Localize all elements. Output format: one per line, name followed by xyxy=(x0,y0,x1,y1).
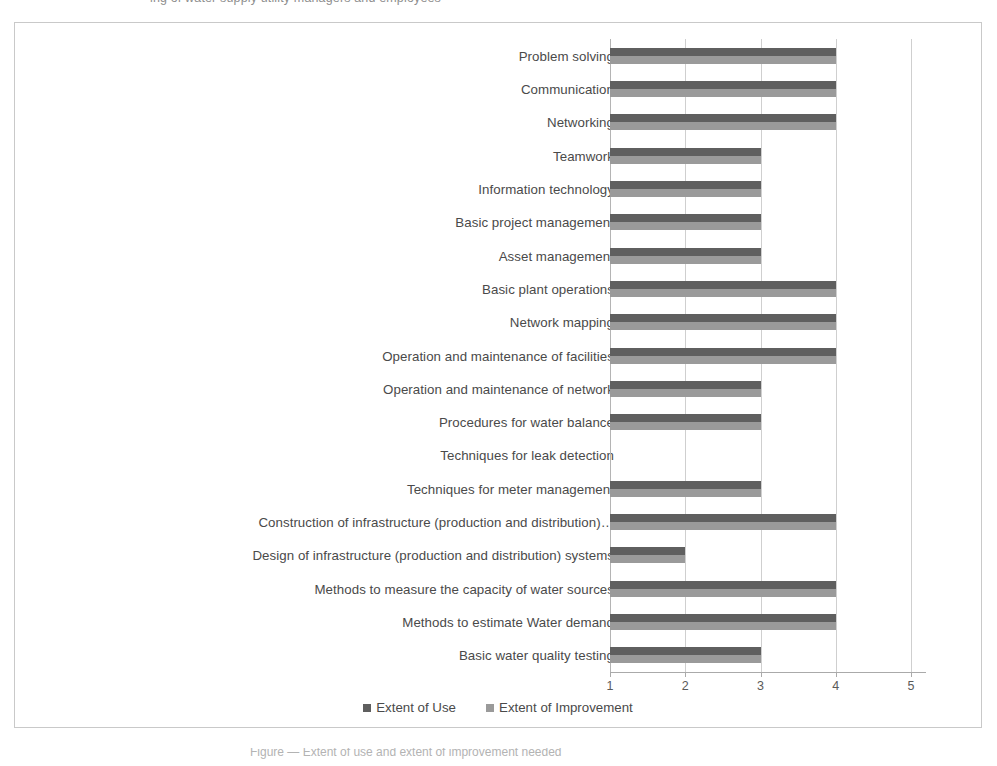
plot-area xyxy=(610,39,912,672)
legend-item-extent-of-improvement[interactable]: Extent of Improvement xyxy=(486,701,633,714)
bar-row xyxy=(610,81,912,97)
bar-extent-of-improvement xyxy=(610,389,761,397)
bar-extent-of-improvement xyxy=(610,122,836,130)
bar-extent-of-use xyxy=(610,481,761,489)
x-tick-mark xyxy=(685,672,686,677)
bar-extent-of-use xyxy=(610,647,761,655)
category-label: Asset management xyxy=(499,250,614,263)
bar-extent-of-improvement xyxy=(610,289,836,297)
x-tick-label: 3 xyxy=(757,680,764,693)
square-swatch-icon xyxy=(486,704,494,712)
x-tick-mark xyxy=(911,672,912,677)
x-tick-label: 1 xyxy=(607,680,614,693)
bar-extent-of-use xyxy=(610,414,761,422)
category-label: Basic water quality testing xyxy=(459,649,614,662)
bar-extent-of-improvement xyxy=(610,89,836,97)
bar-extent-of-use xyxy=(610,314,836,322)
bar-extent-of-improvement xyxy=(610,156,761,164)
bar-row xyxy=(610,581,912,597)
bar-extent-of-use xyxy=(610,547,685,555)
x-tick-label: 4 xyxy=(832,680,839,693)
bar-row xyxy=(610,514,912,530)
bar-row xyxy=(610,647,912,663)
category-label: Construction of infrastructure (producti… xyxy=(258,516,614,529)
top-caption-strip: ing of water supply utility managers and… xyxy=(0,0,997,13)
category-label: Network mapping xyxy=(510,316,614,329)
category-label: Information technology xyxy=(478,183,614,196)
bar-extent-of-improvement xyxy=(610,322,836,330)
x-axis-line xyxy=(610,672,926,673)
category-label: Basic project management xyxy=(455,216,614,229)
category-label: Teamwork xyxy=(553,150,614,163)
bar-extent-of-use xyxy=(610,281,836,289)
bar-row xyxy=(610,114,912,130)
bar-row xyxy=(610,148,912,164)
bar-row xyxy=(610,348,912,364)
bar-extent-of-improvement xyxy=(610,56,836,64)
bar-extent-of-improvement xyxy=(610,589,836,597)
category-label: Methods to measure the capacity of water… xyxy=(314,583,614,596)
category-label: Techniques for leak detection xyxy=(440,449,614,462)
category-label: Design of infrastructure (production and… xyxy=(252,549,614,562)
bar-extent-of-use xyxy=(610,514,836,522)
bar-extent-of-improvement xyxy=(610,655,761,663)
square-swatch-icon xyxy=(363,704,371,712)
bar-extent-of-use xyxy=(610,181,761,189)
x-tick-label: 5 xyxy=(908,680,915,693)
bar-extent-of-improvement xyxy=(610,555,685,563)
bar-extent-of-improvement xyxy=(610,189,761,197)
bar-extent-of-improvement xyxy=(610,522,836,530)
category-label: Operation and maintenance of facilities xyxy=(382,350,614,363)
bar-extent-of-improvement xyxy=(610,422,761,430)
legend-item-extent-of-use[interactable]: Extent of Use xyxy=(363,701,456,714)
category-label: Networking xyxy=(547,116,614,129)
plot-wrap: Problem solvingCommunicationNetworkingTe… xyxy=(15,23,981,727)
bar-extent-of-use xyxy=(610,348,836,356)
bar-extent-of-use xyxy=(610,48,836,56)
x-tick-mark xyxy=(836,672,837,677)
bar-extent-of-improvement xyxy=(610,356,836,364)
bar-extent-of-improvement xyxy=(610,256,761,264)
bar-extent-of-improvement xyxy=(610,489,761,497)
chart-frame: Problem solvingCommunicationNetworkingTe… xyxy=(14,22,982,728)
top-caption-text: ing of water supply utility managers and… xyxy=(150,0,441,5)
category-label: Problem solving xyxy=(519,50,614,63)
bar-row xyxy=(610,481,912,497)
bar-extent-of-use xyxy=(610,114,836,122)
legend-item-label: Extent of Use xyxy=(376,701,456,714)
bar-extent-of-improvement xyxy=(610,222,761,230)
bar-row xyxy=(610,314,912,330)
bottom-caption-text: Figure — Extent of use and extent of imp… xyxy=(250,748,562,759)
bar-row xyxy=(610,48,912,64)
bar-extent-of-use xyxy=(610,381,761,389)
bar-extent-of-use xyxy=(610,614,836,622)
bar-extent-of-improvement xyxy=(610,622,836,630)
bar-row xyxy=(610,614,912,630)
legend-item-label: Extent of Improvement xyxy=(499,701,633,714)
category-label: Operation and maintenance of network xyxy=(383,383,614,396)
bar-row xyxy=(610,447,912,463)
bar-extent-of-use xyxy=(610,214,761,222)
bar-row xyxy=(610,181,912,197)
category-label: Basic plant operations xyxy=(482,283,614,296)
bar-row xyxy=(610,248,912,264)
x-tick-mark xyxy=(761,672,762,677)
bar-extent-of-use xyxy=(610,148,761,156)
category-label: Techniques for meter management xyxy=(407,483,614,496)
category-label: Procedures for water balance xyxy=(439,416,614,429)
category-label: Communication xyxy=(521,83,614,96)
bar-extent-of-use xyxy=(610,248,761,256)
bar-row xyxy=(610,381,912,397)
bar-row xyxy=(610,281,912,297)
x-tick-label: 2 xyxy=(682,680,689,693)
bar-extent-of-use xyxy=(610,81,836,89)
bar-row xyxy=(610,414,912,430)
bottom-caption-strip: Figure — Extent of use and extent of imp… xyxy=(0,748,997,766)
bar-row xyxy=(610,547,912,563)
bar-row xyxy=(610,214,912,230)
category-label: Methods to estimate Water demand xyxy=(402,616,614,629)
bar-extent-of-use xyxy=(610,581,836,589)
chart-legend: Extent of UseExtent of Improvement xyxy=(15,701,981,714)
x-tick-mark xyxy=(610,672,611,677)
